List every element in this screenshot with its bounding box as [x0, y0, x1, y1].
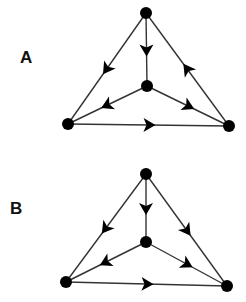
node-bottom-right — [223, 120, 235, 132]
arrowhead-icon — [97, 254, 114, 272]
triangle-graph-diagram — [0, 0, 246, 302]
panel-a — [62, 7, 235, 132]
arrowhead-icon — [178, 60, 196, 78]
node-top — [140, 7, 152, 19]
arrowhead-icon — [179, 255, 196, 273]
arrowhead-icon — [96, 220, 114, 238]
arrowhead-icon — [178, 222, 196, 240]
node-bottom-left — [62, 118, 74, 130]
node-center — [141, 80, 153, 92]
arrowhead-icon — [98, 97, 115, 115]
node-top — [140, 168, 152, 180]
node-center — [140, 236, 152, 248]
panel-b — [60, 168, 233, 292]
arrowhead-icon — [97, 60, 115, 78]
arrowhead-icon — [180, 98, 197, 116]
node-bottom-left — [60, 276, 72, 288]
node-bottom-right — [221, 280, 233, 292]
